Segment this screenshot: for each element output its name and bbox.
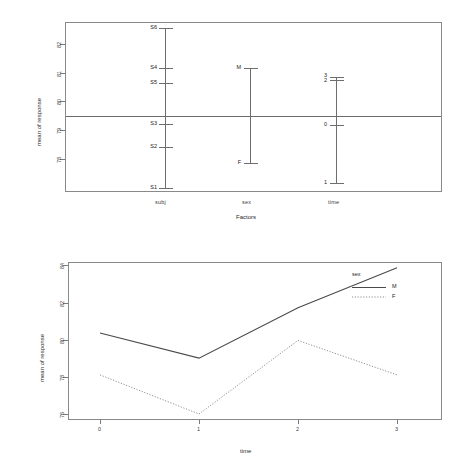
x-tick [397,420,398,424]
legend-key-f [352,296,386,298]
series-lines [0,0,456,462]
x-axis-title: time [240,448,251,454]
x-tick [298,420,299,424]
x-tick-label-1: 1 [197,427,200,433]
x-tick [199,420,200,424]
x-tick-label-0: 0 [98,427,101,433]
x-tick-label-3: 3 [395,427,398,433]
legend-key-m [352,287,386,288]
x-tick-label-2: 2 [296,427,299,433]
legend-label-f: F [392,294,395,300]
series-line-f [100,340,397,414]
legend-label-m: M [392,284,397,290]
legend-title: sex [352,272,361,278]
series-line-m [100,268,397,358]
x-tick [100,420,101,424]
